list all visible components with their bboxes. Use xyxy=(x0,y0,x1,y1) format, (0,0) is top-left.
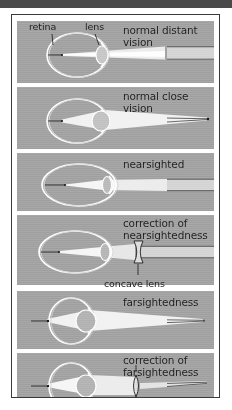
panel-label-normal-distant-vision: normal distant vision xyxy=(123,25,197,48)
panel-label-correction-of-farsightedness: correction of farsightedness xyxy=(123,355,198,378)
panel-label-farsightedness: farsightedness xyxy=(123,297,198,309)
panel-label-nearsighted: nearsighted xyxy=(123,159,184,171)
panel-label-correction-of-nearsightedness: correction of nearsightedness xyxy=(123,218,208,241)
label-retina: retina xyxy=(29,22,56,32)
panel-nearsighted: nearsighted xyxy=(17,153,214,211)
figure-frame: retina lens normal distant vision normal… xyxy=(11,14,220,398)
top-bar xyxy=(0,0,232,8)
diagram-nearsighted xyxy=(17,153,214,211)
label-concave-lens: concave lens xyxy=(104,279,165,289)
label-lens: lens xyxy=(85,22,104,32)
panel-normal-close-vision: normal close vision xyxy=(17,87,214,149)
panel-label-normal-close-vision: normal close vision xyxy=(123,91,188,114)
panel-correction-of-nearsightedness: correction of nearsightedness xyxy=(17,215,214,285)
panel-normal-distant-vision: retina lens normal distant vision xyxy=(17,21,214,83)
panel-farsightedness: farsightedness xyxy=(17,291,214,349)
panel-correction-of-farsightedness: correction of farsightedness convex lens xyxy=(17,353,214,398)
